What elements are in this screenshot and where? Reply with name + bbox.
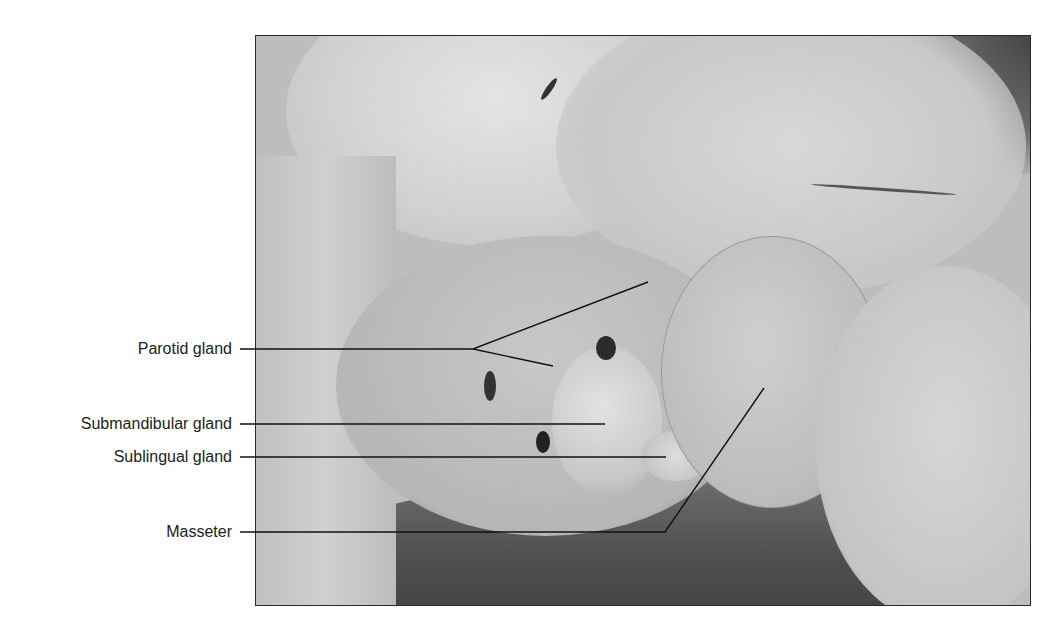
label-submandibular-gland: Submandibular gland [81,415,232,433]
dark-gap-2 [596,336,616,360]
dissection-photo [255,35,1031,606]
dark-gap-3 [484,371,496,401]
label-masseter: Masseter [166,523,232,541]
dark-gap-1 [536,431,550,453]
submandibular-gland [552,346,662,496]
label-parotid-gland: Parotid gland [138,340,232,358]
anatomy-figure: Parotid gland Submandibular gland Sublin… [0,0,1053,635]
label-sublingual-gland: Sublingual gland [114,448,232,466]
